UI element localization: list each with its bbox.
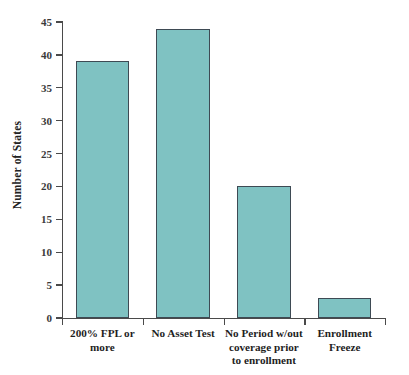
x-axis-category-label: 200% FPL ormore bbox=[62, 327, 143, 354]
x-axis-tick-mark bbox=[62, 318, 63, 325]
x-axis-category-label: No Asset Test bbox=[143, 327, 224, 341]
bar-chart: Number of States 051015202530354045 200%… bbox=[0, 0, 409, 375]
y-axis-title-label: Number of States bbox=[11, 121, 23, 210]
category-label-line: to enrollment bbox=[224, 354, 305, 368]
plot-area bbox=[62, 22, 385, 318]
category-label-line: No Asset Test bbox=[143, 327, 224, 341]
category-label-line: No Period w/out bbox=[224, 327, 305, 341]
y-axis-tick-label: 5 bbox=[47, 277, 53, 293]
category-label-line: 200% FPL or bbox=[62, 327, 143, 341]
y-axis-tick-label: 10 bbox=[41, 244, 52, 260]
bar[interactable] bbox=[318, 298, 372, 318]
y-axis-tick-label: 0 bbox=[47, 310, 53, 326]
x-axis-category-label: No Period w/outcoverage priorto enrollme… bbox=[224, 327, 305, 368]
bar[interactable] bbox=[156, 29, 210, 318]
x-axis-tick-mark bbox=[143, 318, 144, 325]
y-axis-tick-label: 35 bbox=[41, 80, 52, 96]
x-axis-tick-mark bbox=[385, 318, 386, 325]
bar[interactable] bbox=[76, 61, 130, 318]
y-axis-tick-label: 15 bbox=[41, 211, 52, 227]
category-label-line: Enrollment bbox=[304, 327, 385, 341]
bar[interactable] bbox=[237, 186, 291, 318]
y-axis-tick-label: 30 bbox=[41, 113, 52, 129]
x-axis-tick-mark bbox=[224, 318, 225, 325]
y-axis-title: Number of States bbox=[0, 0, 34, 330]
category-label-line: more bbox=[62, 341, 143, 355]
x-axis-category-label: EnrollmentFreeze bbox=[304, 327, 385, 354]
category-label-line: coverage prior bbox=[224, 341, 305, 355]
y-axis-tick-label: 45 bbox=[41, 14, 52, 30]
y-axis-tick-label: 20 bbox=[41, 178, 52, 194]
x-axis-tick-mark bbox=[304, 318, 305, 325]
y-axis-tick-label: 25 bbox=[41, 146, 52, 162]
category-label-line: Freeze bbox=[304, 341, 385, 355]
y-axis-tick-label: 40 bbox=[41, 47, 52, 63]
